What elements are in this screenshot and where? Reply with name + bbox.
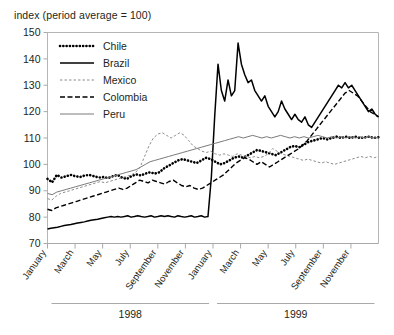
y-tick-label: 80 bbox=[29, 211, 41, 223]
series-line-peru bbox=[48, 135, 379, 194]
y-tick-label: 110 bbox=[24, 132, 41, 144]
x-tick-label: March bbox=[217, 247, 241, 275]
chart-container: index (period average = 100) 70809010011… bbox=[0, 0, 394, 335]
x-tick-label: March bbox=[52, 247, 76, 275]
chart-plot: 7080901001101201301401501998JanuaryMarch… bbox=[0, 0, 394, 335]
y-tick-label: 90 bbox=[29, 184, 41, 196]
x-tick-label: May bbox=[249, 247, 268, 268]
y-tick-label: 150 bbox=[23, 26, 41, 38]
x-tick-label: July bbox=[112, 247, 131, 267]
year-group-label: 1998 bbox=[119, 308, 143, 320]
x-tick-label: January bbox=[185, 247, 214, 281]
year-group-label: 1999 bbox=[284, 308, 308, 320]
y-tick-label: 120 bbox=[23, 105, 41, 117]
x-tick-label: May bbox=[84, 247, 103, 268]
x-tick-label: July bbox=[278, 247, 297, 267]
y-tick-label: 140 bbox=[23, 53, 41, 65]
y-tick-label: 100 bbox=[23, 158, 41, 170]
legend-label-colombia: Colombia bbox=[103, 91, 148, 103]
legend-label-mexico: Mexico bbox=[103, 74, 136, 86]
x-tick-label: January bbox=[20, 247, 49, 281]
legend-label-brazil: Brazil bbox=[103, 57, 129, 69]
series-line-brazil bbox=[48, 43, 379, 229]
legend-label-peru: Peru bbox=[103, 108, 125, 120]
legend-label-chile: Chile bbox=[103, 40, 127, 52]
y-tick-label: 130 bbox=[23, 79, 41, 91]
